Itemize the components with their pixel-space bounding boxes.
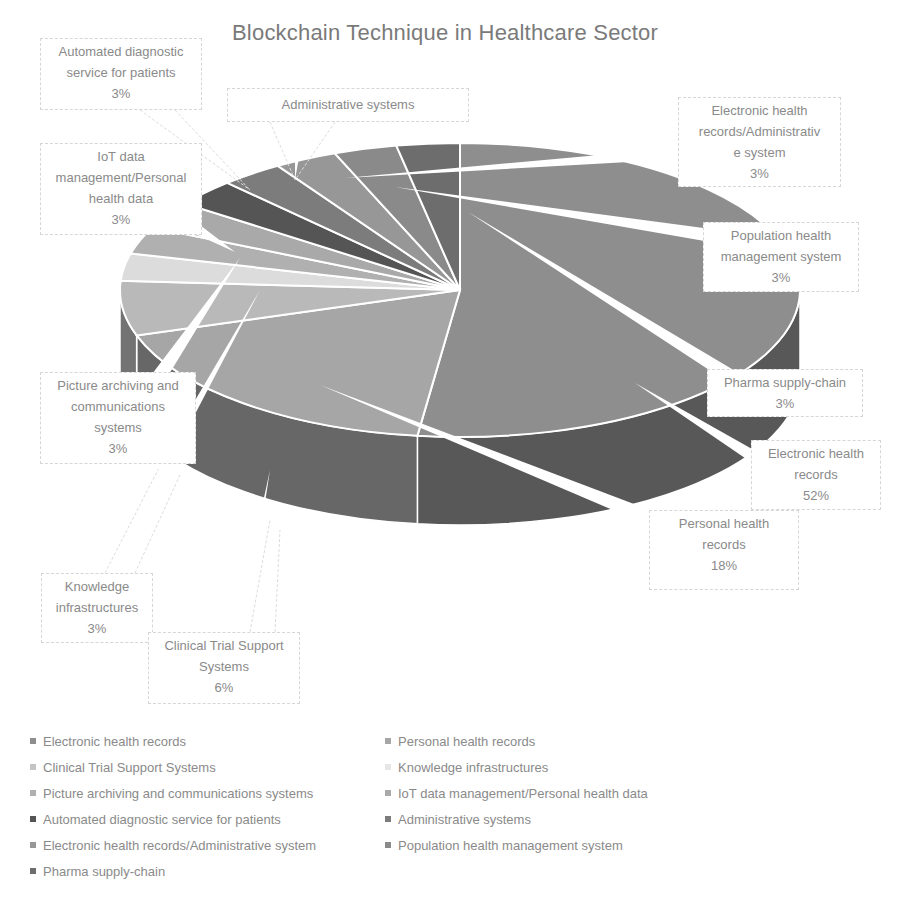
legend-swatch-icon xyxy=(385,816,391,822)
label-line: service for patients xyxy=(45,62,197,83)
legend-item: Pharma supply-chain xyxy=(30,860,385,882)
label-line: communications xyxy=(45,396,191,417)
legend-item: Administrative systems xyxy=(385,808,725,830)
legend-label: Automated diagnostic service for patient… xyxy=(43,812,281,827)
label-line: records/Administrativ xyxy=(683,121,836,142)
legend-swatch-icon xyxy=(385,764,391,770)
label-line: records xyxy=(756,464,876,485)
legend-label: Clinical Trial Support Systems xyxy=(43,760,216,775)
legend-swatch-icon xyxy=(30,868,36,874)
chart-area: Blockchain Technique in Healthcare Secto… xyxy=(0,0,907,924)
legend-label: Knowledge infrastructures xyxy=(398,760,548,775)
label-percent: 3% xyxy=(683,163,836,184)
label-percent: 3% xyxy=(46,618,148,639)
label-line: Electronic health xyxy=(683,100,836,121)
label-percent: 18% xyxy=(654,555,794,576)
pie-top-face: Electronic health records 52%Personal he… xyxy=(120,143,800,437)
label-line: Clinical Trial Support xyxy=(153,635,295,656)
legend-item: Personal health records xyxy=(385,730,725,752)
legend-swatch-icon xyxy=(385,738,391,744)
label-percent: 3% xyxy=(712,393,858,414)
label-line: Personal health xyxy=(654,513,794,534)
legend-swatch-icon xyxy=(30,764,36,770)
label-line: Systems xyxy=(153,656,295,677)
label-line: management/Personal xyxy=(45,167,197,188)
label-line: Pharma supply-chain xyxy=(712,372,858,393)
label-picture-archiving: Picture archiving and communications sys… xyxy=(40,372,196,464)
label-personal-health-records: Personal health records 18% xyxy=(649,510,799,590)
legend-label: Electronic health records/Administrative… xyxy=(43,838,316,853)
label-administrative-systems: Administrative systems xyxy=(227,88,469,122)
legend-swatch-icon xyxy=(30,816,36,822)
leader-line xyxy=(105,462,162,573)
chart-legend: Electronic health records Personal healt… xyxy=(30,730,730,882)
legend-item: Clinical Trial Support Systems xyxy=(30,756,385,778)
legend-item: Automated diagnostic service for patient… xyxy=(30,808,385,830)
legend-label: Pharma supply-chain xyxy=(43,864,165,879)
label-iot-data: IoT data management/Personal health data… xyxy=(40,143,202,235)
label-line: records xyxy=(654,534,794,555)
label-line: e system xyxy=(683,142,836,163)
legend-item: Electronic health records xyxy=(30,730,385,752)
legend-label: Administrative systems xyxy=(398,812,531,827)
legend-label: Picture archiving and communications sys… xyxy=(43,786,313,801)
label-automated-diagnostic: Automated diagnostic service for patient… xyxy=(40,38,202,110)
label-line: Administrative systems xyxy=(232,91,464,119)
label-line: infrastructures xyxy=(46,597,148,618)
label-ehr-administrative: Electronic health records/Administrativ … xyxy=(678,97,841,187)
label-line: IoT data xyxy=(45,146,197,167)
label-pharma-supply-chain: Pharma supply-chain 3% xyxy=(707,369,863,417)
label-percent: 3% xyxy=(45,209,197,230)
legend-swatch-icon xyxy=(30,738,36,744)
label-percent: 3% xyxy=(708,267,854,288)
label-line: health data xyxy=(45,188,197,209)
label-line: systems xyxy=(45,417,191,438)
legend-label: Population health management system xyxy=(398,838,623,853)
label-line: management system xyxy=(708,246,854,267)
leader-line xyxy=(135,475,180,573)
legend-label: Personal health records xyxy=(398,734,535,749)
legend-item: Population health management system xyxy=(385,834,725,856)
legend-item: Electronic health records/Administrative… xyxy=(30,834,385,856)
label-line: Population health xyxy=(708,225,854,246)
label-percent: 52% xyxy=(756,485,876,506)
label-line: Picture archiving and xyxy=(45,375,191,396)
legend-swatch-icon xyxy=(385,790,391,796)
label-clinical-trial: Clinical Trial Support Systems 6% xyxy=(148,632,300,704)
label-line: Electronic health xyxy=(756,443,876,464)
legend-label: Electronic health records xyxy=(43,734,186,749)
label-line: Knowledge xyxy=(46,576,148,597)
legend-swatch-icon xyxy=(30,842,36,848)
label-percent: 3% xyxy=(45,438,191,459)
leader-line xyxy=(275,530,280,632)
label-percent: 3% xyxy=(45,83,197,104)
legend-item: Picture archiving and communications sys… xyxy=(30,782,385,804)
legend-swatch-icon xyxy=(30,790,36,796)
label-line: Automated diagnostic xyxy=(45,41,197,62)
legend-item: Knowledge infrastructures xyxy=(385,756,725,778)
label-knowledge-infrastructures: Knowledge infrastructures 3% xyxy=(41,573,153,643)
legend-item: IoT data management/Personal health data xyxy=(385,782,725,804)
legend-swatch-icon xyxy=(385,842,391,848)
label-electronic-health-records: Electronic health records 52% xyxy=(751,440,881,510)
label-percent: 6% xyxy=(153,677,295,698)
legend-label: IoT data management/Personal health data xyxy=(398,786,648,801)
label-population-health: Population health management system 3% xyxy=(703,222,859,292)
